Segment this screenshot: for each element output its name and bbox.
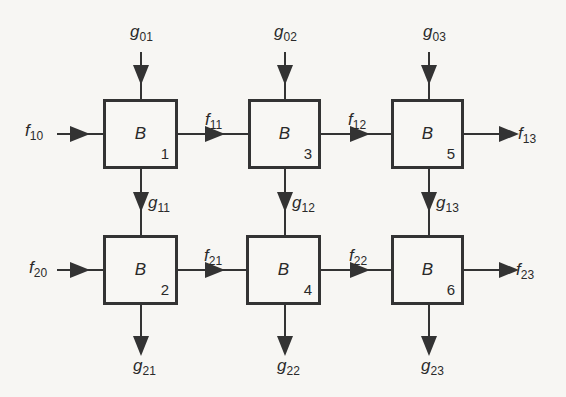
label-g23: g23 bbox=[421, 356, 444, 378]
label-g03: g03 bbox=[423, 22, 446, 44]
label-f23: f23 bbox=[516, 260, 534, 282]
block-number: 3 bbox=[304, 145, 312, 162]
label-f20: f20 bbox=[29, 258, 47, 280]
label-f11: f11 bbox=[205, 110, 222, 132]
block-number: 5 bbox=[447, 145, 455, 162]
label-g21: g21 bbox=[133, 356, 156, 378]
block-number: 1 bbox=[161, 145, 169, 162]
connection-arrows bbox=[0, 0, 566, 397]
label-g02: g02 bbox=[274, 22, 297, 44]
block-4: B 4 bbox=[246, 235, 321, 305]
block-symbol: B bbox=[394, 260, 461, 280]
label-f12: f12 bbox=[348, 110, 366, 132]
label-g12: g12 bbox=[292, 193, 315, 215]
label-f21: f21 bbox=[204, 246, 222, 268]
block-2: B 2 bbox=[103, 235, 178, 305]
block-symbol: B bbox=[106, 124, 175, 144]
block-symbol: B bbox=[249, 260, 318, 280]
block-number: 4 bbox=[304, 281, 312, 298]
block-symbol: B bbox=[106, 260, 175, 280]
label-g11: g11 bbox=[148, 193, 170, 215]
block-6: B 6 bbox=[391, 235, 464, 305]
block-5: B 5 bbox=[391, 99, 464, 169]
label-g01: g01 bbox=[130, 22, 153, 44]
block-1: B 1 bbox=[103, 99, 178, 169]
block-symbol: B bbox=[251, 124, 318, 144]
label-f10: f10 bbox=[25, 121, 43, 143]
label-f13: f13 bbox=[518, 124, 536, 146]
block-number: 6 bbox=[447, 281, 455, 298]
label-g13: g13 bbox=[436, 193, 459, 215]
label-f22: f22 bbox=[349, 246, 367, 268]
block-symbol: B bbox=[394, 124, 461, 144]
block-number: 2 bbox=[161, 281, 169, 298]
label-g22: g22 bbox=[277, 356, 300, 378]
block-3: B 3 bbox=[248, 99, 321, 169]
